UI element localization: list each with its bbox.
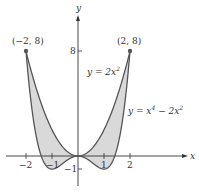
curve-upper-label: y = 2x2 <box>86 65 120 77</box>
y-ticks <box>78 51 82 169</box>
y-tick-neg1-label: −1 <box>64 164 77 174</box>
x-tick-neg2-label: −2 <box>19 160 32 170</box>
x-tick-2-label: 2 <box>127 160 133 170</box>
point-right-label: (2, 8) <box>117 36 141 46</box>
point-left-marker <box>24 49 28 53</box>
x-axis-arrow-icon <box>182 154 188 158</box>
y-tick-8-label: 8 <box>70 46 76 56</box>
point-right-marker <box>128 49 132 53</box>
x-tick-neg1-label: −1 <box>46 160 59 170</box>
area-between-curves-figure: (−2, 8) (2, 8) y x 8 −1 −2 −1 1 2 y = 2x… <box>0 0 199 192</box>
point-left-label: (−2, 8) <box>12 36 44 46</box>
x-tick-1-label: 1 <box>101 160 107 170</box>
curve-lower-label: y = x4 − 2x2 <box>127 104 183 116</box>
y-axis-arrow-icon <box>76 15 80 21</box>
x-axis-label: x <box>190 151 195 161</box>
y-axis-label: y <box>75 3 82 13</box>
